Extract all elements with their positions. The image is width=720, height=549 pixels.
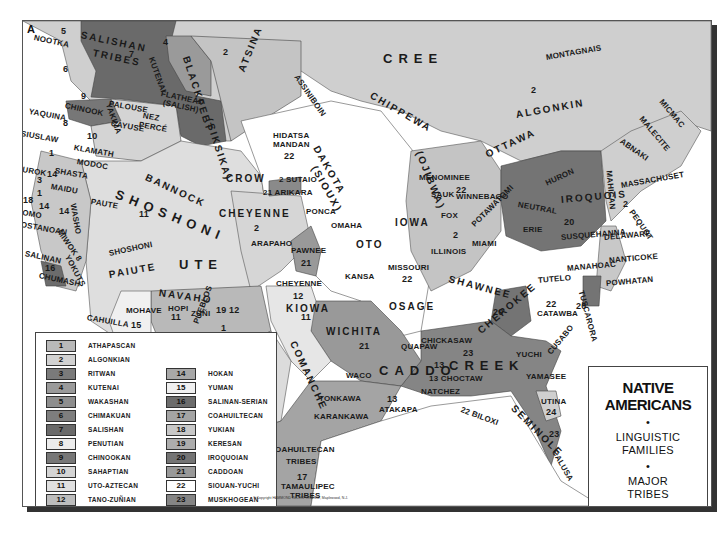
map-label: 21 ARIKARA <box>263 188 313 197</box>
map-label: HIDATSA <box>273 131 309 140</box>
map-label: 2 <box>453 230 458 240</box>
legend-item: 17COAHUILTECAN <box>166 409 268 422</box>
legend-label: RITWAN <box>88 370 115 377</box>
map-label: 2 <box>623 199 628 209</box>
map-label: IOWA <box>395 217 430 228</box>
legend-label: SALINAN-SERIAN <box>208 398 268 405</box>
map-label: 13 <box>434 360 444 370</box>
legend-label: UTO-AZTECAN <box>88 482 138 489</box>
legend-item: 19KERESAN <box>166 437 268 450</box>
legend-swatch: 12 <box>46 494 76 506</box>
title-families: FAMILIES <box>589 444 707 457</box>
map-label: ILLINOIS <box>431 247 466 256</box>
legend-swatch: 6 <box>46 410 76 422</box>
map-label: 13 CHOCTAW <box>429 374 483 383</box>
map-label: 21 <box>301 258 311 268</box>
map-label: KANSA <box>345 272 374 281</box>
legend-label: HOKAN <box>208 370 233 377</box>
map-label: MIAMI <box>472 239 497 248</box>
legend-item: 15YUMAN <box>166 381 268 394</box>
legend-item: 4KUTENAI <box>46 381 138 394</box>
legend-item: 10SAHAPTIAN <box>46 465 138 478</box>
legend-swatch: 1 <box>46 340 76 352</box>
title-linguistic: LINGUISTIC <box>589 431 707 444</box>
map-label: ATAKAPA <box>379 405 418 414</box>
map-label: 10 <box>87 131 97 141</box>
map-label: 23 <box>549 429 559 439</box>
legend-swatch: 20 <box>166 452 196 464</box>
map-label: 11 <box>301 312 311 322</box>
map-label: 14 <box>59 206 69 216</box>
map-label: TRIBES <box>286 457 317 466</box>
title-box: NATIVE AMERICANS • LINGUISTIC FAMILIES •… <box>588 366 708 507</box>
legend-column-2: 14HOKAN15YUMAN16SALINAN-SERIAN17COAHUILT… <box>166 367 268 507</box>
legend-label: CHIMAKUAN <box>88 412 131 419</box>
bullet: • <box>589 416 707 428</box>
map-label: MANDAN <box>273 140 310 149</box>
map-label: CREE <box>383 51 443 66</box>
legend-swatch: 23 <box>166 494 196 506</box>
map-label: 14 <box>39 201 49 211</box>
legend-label: TANO-ZUÑIAN <box>88 496 136 503</box>
map-label: 23 <box>463 348 473 358</box>
map-label: 2 SUTAIO <box>279 175 317 184</box>
map-label: 22 <box>402 274 412 284</box>
legend-label: PENUTIAN <box>88 440 124 447</box>
map-label: 2 <box>223 47 228 57</box>
legend-swatch: 9 <box>46 452 76 464</box>
legend-item: 21CADDOAN <box>166 465 268 478</box>
map-label: 19 12 <box>216 305 240 315</box>
map-label: YUCHI <box>516 350 542 359</box>
map-label: CHEYENNE <box>219 208 291 219</box>
legend-swatch: 3 <box>46 368 76 380</box>
map-label: CREEK <box>449 358 525 373</box>
map-frame: A SALISHANTRIBES75NOOTKA6KUTENAI4BLACKFE… <box>22 20 712 507</box>
map-label: NATCHEZ <box>421 387 460 396</box>
map-label: COAHUILTECAN <box>269 445 335 454</box>
map-label: 20 <box>564 217 574 227</box>
map-label: 12 <box>293 291 303 301</box>
legend-item: 20IROQUOIAN <box>166 451 268 464</box>
legend-label: CHINOOKAN <box>88 454 131 461</box>
legend-swatch: 15 <box>166 382 196 394</box>
map-label: 5 <box>61 26 66 36</box>
map-label: 24 <box>546 407 556 417</box>
legend-swatch: 18 <box>166 424 196 436</box>
map-label: PONCA <box>306 207 336 216</box>
legend-label: MUSKHOGEAN <box>208 496 259 503</box>
legend-swatch: 2 <box>46 354 76 366</box>
legend-item: 7SALISHAN <box>46 423 138 436</box>
map-label: MOHAVE <box>126 306 162 315</box>
map-label: 4 <box>163 37 168 47</box>
legend-swatch: 17 <box>166 410 196 422</box>
map-label: 11 <box>139 209 149 219</box>
legend-label: ATHAPASCAN <box>88 342 136 349</box>
legend-item: 6CHIMAKUAN <box>46 409 138 422</box>
map-label: PAWNEE <box>291 246 326 255</box>
legend-item: 3RITWAN <box>46 367 138 380</box>
legend-item: 22SIOUAN-YUCHI <box>166 479 268 492</box>
legend-swatch: 16 <box>166 396 196 408</box>
legend-label: YUMAN <box>208 384 233 391</box>
legend-swatch: 5 <box>46 396 76 408</box>
legend-label: SALISHAN <box>88 426 124 433</box>
map-label: 2 <box>254 223 259 233</box>
map-label: CATAWBA <box>537 309 578 318</box>
map-label: 21 <box>359 341 369 351</box>
legend-item: 8PENUTIAN <box>46 437 138 450</box>
legend-label: YUKIAN <box>208 426 235 433</box>
map-label: 8 <box>63 118 68 128</box>
map-label: 16 <box>45 263 55 273</box>
legend-item: 2ALGONKIAN <box>46 353 138 366</box>
map-label: CROW <box>226 173 266 184</box>
legend-item: 11UTO-AZTECAN <box>46 479 138 492</box>
map-label: 1 <box>49 148 54 158</box>
map-label: 22 <box>284 151 294 161</box>
map-label: TONKAWA <box>319 394 361 403</box>
map-label: 18 <box>23 195 33 205</box>
map-label: FOX <box>441 211 458 220</box>
map-label: 6 <box>63 64 68 74</box>
map-label: 9 <box>81 91 86 101</box>
legend-label: COAHUILTECAN <box>208 412 263 419</box>
map-label: YAMASEE <box>526 372 566 381</box>
